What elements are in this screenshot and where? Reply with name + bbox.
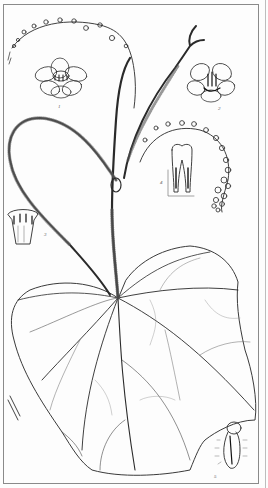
- botanical-plate: 1 2 3 4 5: [0, 0, 268, 488]
- figure-label-2: 2: [218, 106, 221, 111]
- stamen-tube-figure: [8, 210, 38, 245]
- figure-label-3: 3: [44, 232, 47, 237]
- hairy-fruit-figure: [215, 422, 247, 468]
- figure-label-5: 5: [214, 474, 217, 479]
- flower-front-figure: [34, 58, 89, 98]
- hairy-loop-stem: [9, 118, 116, 295]
- main-leaf: [11, 246, 255, 475]
- midrib: [118, 298, 135, 470]
- flower-open-figure: [185, 60, 237, 102]
- figure-label-4: 4: [160, 180, 163, 185]
- top-raceme-buds: [8, 18, 128, 64]
- corolla-section-figure: [168, 144, 194, 196]
- right-raceme-fruits: [143, 121, 231, 212]
- illustration-drawing: [0, 0, 268, 488]
- figure-label-1: 1: [58, 104, 61, 109]
